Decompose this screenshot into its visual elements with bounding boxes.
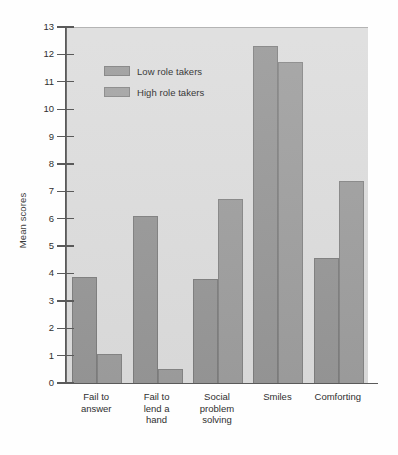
bar-low-role-takers (314, 258, 339, 384)
bar-high-role-takers (158, 369, 183, 384)
x-axis-line (58, 383, 378, 384)
y-tick-mark (57, 355, 74, 356)
legend-swatch-icon-high (104, 87, 130, 97)
bar-low-role-takers (72, 277, 97, 384)
y-tick-mark (57, 218, 74, 219)
y-tick-label: 6 (34, 214, 54, 224)
y-tick-mark (57, 382, 74, 383)
y-tick-mark (57, 273, 74, 274)
bar-low-role-takers (253, 46, 278, 384)
y-tick-mark (57, 163, 74, 164)
y-tick-label: 10 (34, 104, 54, 114)
y-tick-mark (57, 300, 74, 301)
bar-high-role-takers (97, 354, 122, 384)
y-tick-mark (57, 109, 74, 110)
y-tick-mark (57, 328, 74, 329)
y-axis-title: Mean scores (14, 155, 32, 285)
y-tick-label: 0 (34, 378, 54, 388)
legend-label-high: High role takers (137, 87, 204, 98)
bar-high-role-takers (218, 199, 243, 384)
y-tick-label: 8 (34, 159, 54, 169)
bar-low-role-takers (133, 216, 158, 384)
y-tick-mark (57, 245, 74, 246)
legend-swatch-icon-low (104, 66, 130, 76)
bar-low-role-takers (193, 279, 218, 384)
y-tick-mark (57, 81, 74, 82)
y-tick-mark (57, 136, 74, 137)
y-tick-label: 7 (34, 186, 54, 196)
y-tick-label: 4 (34, 268, 54, 278)
bar-high-role-takers (339, 181, 364, 384)
y-axis-line (65, 26, 66, 384)
y-tick-label: 3 (34, 296, 54, 306)
chart-legend: Low role takers High role takers (104, 63, 229, 105)
legend-item-low-role-takers: Low role takers (104, 63, 229, 79)
y-tick-label: 1 (34, 351, 54, 361)
y-tick-mark (57, 26, 74, 27)
plot-area: Low role takers High role takers (66, 27, 368, 383)
x-axis-category-label: Comforting (293, 391, 383, 403)
y-tick-label: 11 (34, 77, 54, 87)
legend-item-high-role-takers: High role takers (104, 84, 229, 100)
legend-label-low: Low role takers (137, 66, 202, 77)
y-tick-label: 9 (34, 132, 54, 142)
y-tick-mark (57, 54, 74, 55)
y-tick-label: 12 (34, 49, 54, 59)
bar-chart-figure: Mean scores Low role takers High role ta… (0, 0, 398, 455)
y-tick-label: 13 (34, 22, 54, 32)
y-tick-mark (57, 191, 74, 192)
y-tick-label: 5 (34, 241, 54, 251)
y-axis-title-text: Mean scores (18, 192, 29, 247)
y-tick-label: 2 (34, 323, 54, 333)
bar-high-role-takers (278, 62, 303, 384)
